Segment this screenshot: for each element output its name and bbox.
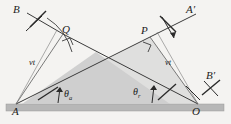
- label-point-o: O: [192, 106, 200, 117]
- figure-canvas: B A′ Q P B′ A O vt vt θa θr: [0, 0, 231, 124]
- label-point-q: Q: [62, 24, 70, 35]
- wavefront-tick-b2: [26, 16, 42, 31]
- label-point-a: A: [12, 106, 19, 117]
- label-point-p: P: [141, 25, 148, 36]
- right-angle-marker-q: [62, 38, 73, 45]
- label-point-b-prime: B′: [206, 70, 215, 81]
- label-angle-incidence: θa: [64, 89, 72, 102]
- label-angle-reflection: θr: [133, 87, 140, 100]
- label-distance-vt-left: vt: [29, 58, 35, 67]
- incident-ray-upper: [27, 13, 63, 34]
- label-point-b: B: [13, 4, 20, 15]
- theta-subscript-r: r: [138, 92, 141, 99]
- label-distance-vt-right: vt: [165, 58, 171, 67]
- label-point-a-prime: A′: [186, 4, 195, 15]
- theta-subscript-a: a: [69, 94, 72, 101]
